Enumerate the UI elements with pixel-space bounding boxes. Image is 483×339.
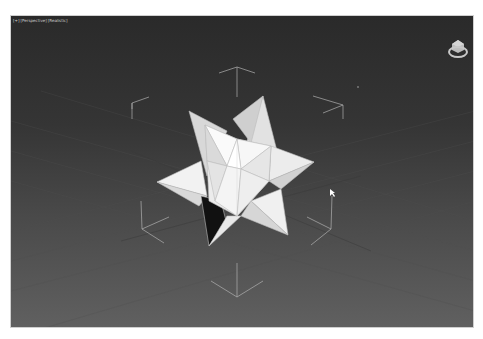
mouse-pointer-icon bbox=[330, 189, 335, 197]
stellated-dodecahedron bbox=[157, 96, 314, 246]
perspective-viewport[interactable]: [+][Perspective][Realistic] bbox=[10, 15, 474, 328]
viewcube-home-icon[interactable] bbox=[445, 36, 471, 62]
scene-marker bbox=[357, 86, 359, 88]
scene-render bbox=[11, 16, 474, 328]
